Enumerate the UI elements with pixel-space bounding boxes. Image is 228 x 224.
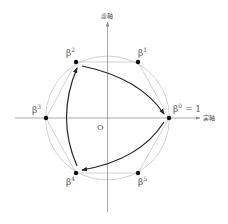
point-beta2 (74, 60, 78, 64)
point-beta3 (44, 116, 48, 120)
arrow-beta4-to-beta2 (67, 68, 78, 166)
label-beta3: β3 (32, 103, 41, 115)
label-beta2: β2 (66, 46, 75, 58)
imaginary-axis-label: 虚軸 (101, 12, 113, 20)
unit-circle-diagram: 虚軸 実軸 O β0 = 1 β1 β2 β3 β4 β5 (0, 0, 228, 224)
point-beta0 (167, 116, 171, 120)
label-beta0: β0 = 1 (173, 102, 201, 114)
label-beta4: β4 (66, 175, 75, 187)
origin-label: O (97, 123, 104, 132)
real-axis-label: 実軸 (203, 114, 215, 122)
arrow-beta2-to-beta0 (82, 66, 164, 114)
label-beta5: β5 (138, 175, 147, 187)
point-beta5 (136, 171, 140, 175)
point-beta1 (136, 60, 140, 64)
label-beta1: β1 (138, 46, 147, 58)
arrow-beta0-to-beta4 (82, 122, 164, 170)
